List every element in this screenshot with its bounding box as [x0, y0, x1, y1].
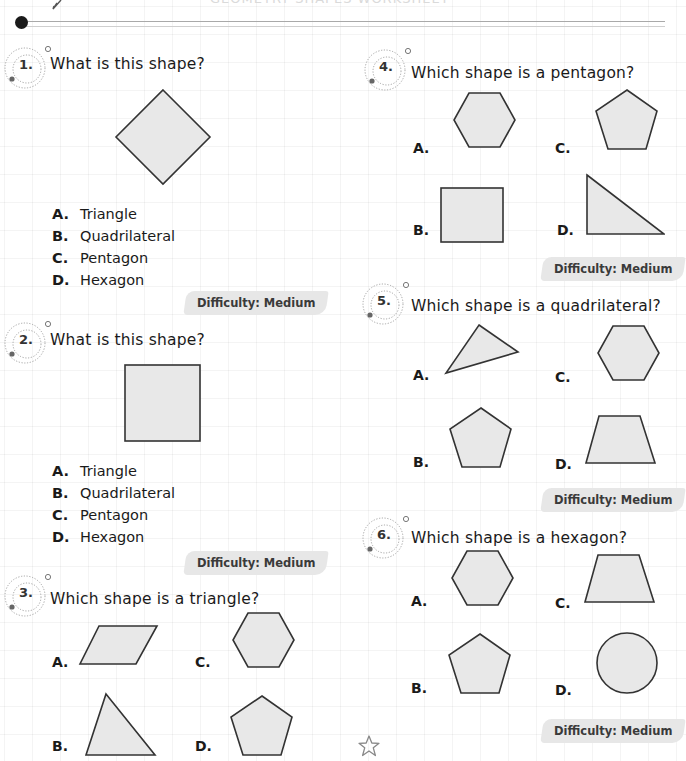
option-c-letter[interactable]: C. — [555, 595, 571, 611]
faded-page-title: GEOMETRY SHAPES WORKSHEET — [210, 0, 480, 5]
option-label: Triangle — [80, 206, 137, 222]
divider-dot-icon — [15, 16, 28, 29]
option-c-letter[interactable]: C. — [555, 369, 571, 385]
option-b-letter[interactable]: B. — [411, 680, 427, 696]
square-shape[interactable] — [439, 186, 505, 244]
difficulty-label: Difficulty: Medium — [197, 556, 315, 570]
option-a[interactable]: A.Triangle — [52, 203, 175, 225]
question-number: 1. — [16, 57, 36, 72]
triangle-shape[interactable] — [84, 692, 158, 758]
option-d[interactable]: D.Hexagon — [52, 269, 175, 291]
question-number-marker: 1. — [0, 41, 48, 89]
question-text: What is this shape? — [50, 331, 205, 349]
option-letter: A. — [52, 460, 80, 482]
option-label: Triangle — [80, 463, 137, 479]
triangle-shape[interactable] — [444, 323, 520, 375]
hexagon-shape[interactable] — [450, 549, 516, 607]
option-letter: B. — [52, 482, 80, 504]
option-letter: C. — [52, 504, 80, 526]
option-b-letter[interactable]: B. — [413, 454, 429, 470]
question-number: 2. — [16, 332, 36, 347]
difficulty-badge: Difficulty: Medium — [185, 291, 327, 315]
option-a-letter[interactable]: A. — [52, 654, 68, 670]
question-text: What is this shape? — [50, 55, 205, 73]
difficulty-badge: Difficulty: Medium — [542, 257, 684, 281]
question-number: 3. — [16, 585, 36, 600]
option-a-letter[interactable]: A. — [413, 367, 429, 383]
circle-shape[interactable] — [594, 630, 660, 696]
option-letter: D. — [52, 526, 80, 548]
option-letter: A. — [52, 203, 80, 225]
pentagon-shape[interactable] — [448, 406, 514, 470]
option-b[interactable]: B.Quadrilateral — [52, 225, 175, 247]
question-text: Which shape is a triangle? — [50, 590, 259, 608]
question-number: 5. — [374, 293, 394, 308]
option-label: Quadrilateral — [80, 228, 175, 244]
option-letter: B. — [52, 225, 80, 247]
pentagon-shape[interactable] — [229, 694, 295, 758]
option-a-letter[interactable]: A. — [411, 593, 427, 609]
question-number-marker: 2. — [0, 316, 48, 364]
question-number-marker: 3. — [0, 569, 48, 617]
header-divider — [22, 21, 665, 27]
option-b[interactable]: B.Quadrilateral — [52, 482, 175, 504]
question-number-marker: 5. — [358, 277, 406, 325]
hexagon-shape[interactable] — [596, 324, 662, 382]
question-text: Which shape is a hexagon? — [411, 529, 627, 547]
difficulty-label: Difficulty: Medium — [554, 724, 672, 738]
option-b-letter[interactable]: B. — [52, 738, 68, 754]
question-number: 6. — [374, 527, 394, 542]
option-label: Pentagon — [80, 507, 148, 523]
option-c[interactable]: C.Pentagon — [52, 247, 175, 269]
difficulty-label: Difficulty: Medium — [197, 296, 315, 310]
pentagon-shape[interactable] — [447, 632, 513, 696]
option-label: Hexagon — [80, 529, 144, 545]
hexagon-shape[interactable] — [452, 91, 518, 149]
square-shape — [123, 363, 203, 443]
option-b-letter[interactable]: B. — [413, 222, 429, 238]
trapezoid-shape[interactable] — [584, 414, 658, 466]
option-a[interactable]: A.Triangle — [52, 460, 175, 482]
option-d-letter[interactable]: D. — [195, 738, 212, 754]
question-number-marker: 4. — [360, 43, 408, 91]
right-triangle-shape[interactable] — [585, 173, 665, 237]
option-c-letter[interactable]: C. — [195, 654, 211, 670]
question-text: Which shape is a quadrilateral? — [411, 297, 661, 315]
answer-options: A.Triangle B.Quadrilateral C.Pentagon D.… — [52, 203, 175, 291]
option-letter: D. — [52, 269, 80, 291]
star-outline-icon — [357, 735, 381, 757]
option-c-letter[interactable]: C. — [555, 140, 571, 156]
option-label: Quadrilateral — [80, 485, 175, 501]
option-c[interactable]: C.Pentagon — [52, 504, 175, 526]
pencil-stroke-icon — [50, 0, 64, 10]
question-number-marker: 6. — [358, 511, 406, 559]
hexagon-shape[interactable] — [231, 611, 297, 669]
option-label: Pentagon — [80, 250, 148, 266]
difficulty-badge: Difficulty: Medium — [542, 488, 684, 512]
option-d-letter[interactable]: D. — [555, 682, 572, 698]
answer-options: A.Triangle B.Quadrilateral C.Pentagon D.… — [52, 460, 175, 548]
trapezoid-shape[interactable] — [583, 553, 657, 605]
question-number: 4. — [376, 59, 396, 74]
difficulty-badge: Difficulty: Medium — [542, 719, 684, 743]
option-d[interactable]: D.Hexagon — [52, 526, 175, 548]
parallelogram-shape[interactable] — [78, 624, 160, 668]
question-text: Which shape is a pentagon? — [411, 64, 635, 82]
option-d-letter[interactable]: D. — [555, 456, 572, 472]
diamond-shape — [114, 88, 214, 188]
option-label: Hexagon — [80, 272, 144, 288]
pentagon-shape[interactable] — [594, 88, 660, 152]
difficulty-label: Difficulty: Medium — [554, 493, 672, 507]
difficulty-badge: Difficulty: Medium — [185, 551, 327, 575]
option-letter: C. — [52, 247, 80, 269]
option-d-letter[interactable]: D. — [557, 222, 574, 238]
difficulty-label: Difficulty: Medium — [554, 262, 672, 276]
option-a-letter[interactable]: A. — [413, 140, 429, 156]
